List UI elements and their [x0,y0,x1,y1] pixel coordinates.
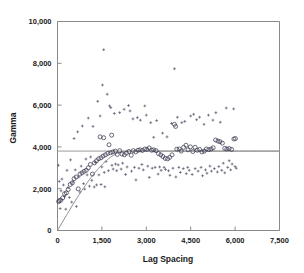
y-tick-label-3: 6,000 [33,101,52,110]
x-tick-label-5: 7,500 [270,236,289,245]
y-tick-label-0: 0 [47,226,51,235]
x-tick-label-0: 0 [55,236,59,245]
variogram-chart-figure: 01,5003,0004,5006,0007,500 02,0004,0006,… [0,0,304,273]
y-tick-label-5: 10,000 [29,17,52,26]
y-tick-label-2: 4,000 [33,143,52,152]
x-tick-label-4: 6,000 [226,236,245,245]
x-tick-label-3: 4,500 [181,236,200,245]
x-axis-title: Lag Spacing [143,254,194,264]
x-tick-label-2: 3,000 [137,236,156,245]
y-tick-label-4: 8,000 [33,59,52,68]
x-tick-label-1: 1,500 [93,236,112,245]
chart-background [0,0,304,273]
chart-canvas: 01,5003,0004,5006,0007,500 02,0004,0006,… [0,0,304,273]
y-tick-label-1: 2,000 [33,185,52,194]
y-axis-title: Gamma [8,112,18,143]
